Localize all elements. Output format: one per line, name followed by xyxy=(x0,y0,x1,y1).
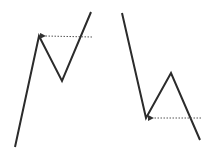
pattern-diagram xyxy=(0,0,212,153)
left-dotted-arrow xyxy=(45,36,92,37)
right-price-line xyxy=(122,13,200,140)
left-price-line xyxy=(15,12,91,147)
diagram-canvas xyxy=(0,0,212,153)
left-pattern-figure xyxy=(15,12,92,147)
right-pattern-figure xyxy=(122,13,201,140)
